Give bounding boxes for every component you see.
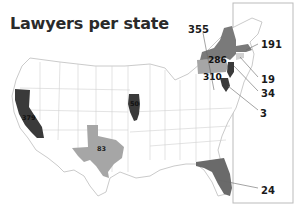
callout-maryland: 3 xyxy=(260,108,267,119)
label-california: 379 xyxy=(22,114,36,122)
callout-355: 355 xyxy=(188,24,209,35)
callout-new-jersey: 34 xyxy=(261,88,275,99)
label-texas: 83 xyxy=(97,145,106,153)
label-new-york: 286 xyxy=(208,55,227,65)
callout-florida: 24 xyxy=(261,185,275,196)
callout-massachusetts: 191 xyxy=(261,39,282,50)
label-illinois: 50 xyxy=(130,100,140,108)
us-map: 379 50 83 286 310 355 191 19 34 3 24 xyxy=(0,0,295,211)
callout-connecticut: 19 xyxy=(261,74,275,85)
